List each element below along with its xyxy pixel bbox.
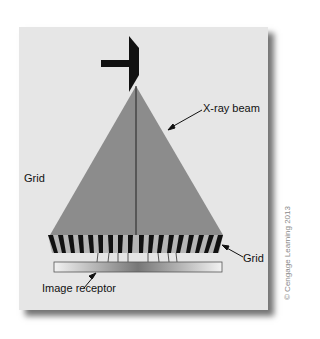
label-image-receptor: Image receptor: [42, 282, 116, 294]
xray-tube-icon: [101, 36, 139, 92]
grid: [48, 235, 223, 262]
label-grid-right: Grid: [243, 252, 264, 264]
label-xray-beam: X-ray beam: [203, 102, 260, 114]
copyright-credit: © Cengage Learning 2013: [283, 206, 292, 300]
image-receptor: [54, 262, 222, 272]
label-grid-left: Grid: [24, 172, 45, 184]
